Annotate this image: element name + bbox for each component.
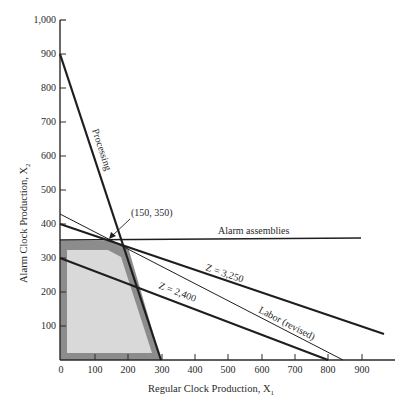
y-tick-label: 700 bbox=[41, 116, 56, 127]
y-tick-label: 400 bbox=[41, 218, 56, 229]
y-axis-title: Alarm Clock Production, X2 bbox=[18, 163, 32, 283]
x-tick-label: 0 bbox=[59, 364, 64, 375]
y-tick-label: 600 bbox=[41, 150, 56, 161]
y-tick-label: 900 bbox=[41, 48, 56, 59]
y-tick-labels: 100 200 300 400 500 600 700 800 900 1,00… bbox=[34, 14, 57, 331]
x-tick-label: 100 bbox=[88, 364, 103, 375]
y-tick-label: 1,000 bbox=[34, 14, 57, 25]
x-tick-label: 300 bbox=[155, 364, 170, 375]
y-tick-label: 100 bbox=[41, 320, 56, 331]
z-3250-label: Z = 3,250 bbox=[204, 261, 245, 284]
y-tick-label: 800 bbox=[41, 82, 56, 93]
y-tick-label: 500 bbox=[41, 184, 56, 195]
lp-graph: 100 200 300 400 500 600 700 800 900 1,00… bbox=[0, 0, 405, 406]
x-axis-title: Regular Clock Production, X1 bbox=[148, 383, 274, 397]
alarm-assemblies-label: Alarm assemblies bbox=[218, 225, 289, 236]
x-tick-label: 700 bbox=[288, 364, 303, 375]
processing-label: Processing bbox=[90, 127, 114, 172]
x-tick-label: 800 bbox=[321, 364, 336, 375]
z-2400-label: Z = 2,400 bbox=[157, 280, 198, 304]
y-tick-label: 300 bbox=[41, 252, 56, 263]
x-tick-labels: 0 100 200 300 400 500 600 700 800 900 bbox=[59, 364, 370, 375]
x-tick-label: 200 bbox=[121, 364, 136, 375]
x-tick-label: 900 bbox=[355, 364, 370, 375]
y-tick-label: 200 bbox=[41, 286, 56, 297]
x-tick-label: 500 bbox=[221, 364, 236, 375]
optimal-point-label: (150, 350) bbox=[131, 207, 173, 219]
x-tick-label: 400 bbox=[188, 364, 203, 375]
x-tick-label: 600 bbox=[255, 364, 270, 375]
